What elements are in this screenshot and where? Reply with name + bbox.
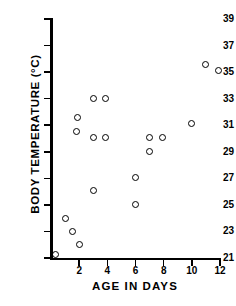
data-point-marker bbox=[76, 241, 83, 248]
data-point-marker bbox=[90, 187, 97, 194]
data-point-marker bbox=[159, 134, 166, 141]
data-point-marker bbox=[132, 201, 139, 208]
data-point-marker bbox=[188, 120, 195, 127]
data-point-marker bbox=[146, 148, 153, 155]
data-point-marker bbox=[69, 228, 76, 235]
data-point-marker bbox=[90, 134, 97, 141]
data-point-marker bbox=[62, 215, 69, 222]
data-point-marker bbox=[52, 251, 59, 258]
x-axis-title: AGE IN DAYS bbox=[40, 280, 230, 292]
data-point-marker bbox=[215, 67, 222, 74]
data-point-layer bbox=[0, 0, 236, 306]
data-point-marker bbox=[73, 128, 80, 135]
data-point-marker bbox=[202, 61, 209, 68]
data-point-marker bbox=[102, 134, 109, 141]
data-point-marker bbox=[132, 174, 139, 181]
scatter-plot-figure: BODY TEMPERATURE (°C) 212325272931333537… bbox=[0, 0, 236, 306]
data-point-marker bbox=[146, 134, 153, 141]
data-point-marker bbox=[74, 114, 81, 121]
data-point-marker bbox=[102, 95, 109, 102]
data-point-marker bbox=[90, 95, 97, 102]
